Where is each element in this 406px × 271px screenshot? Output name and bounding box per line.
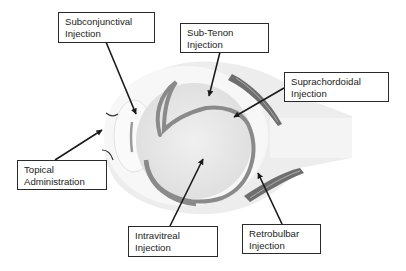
label-line1: Topical <box>24 164 106 176</box>
label-line2: Injection <box>249 240 320 252</box>
iris <box>131 122 132 152</box>
label-line1: Intravitreal <box>135 230 217 242</box>
label-intravitreal-injection: Intravitreal Injection <box>128 226 218 257</box>
label-sub-tenon-injection: Sub-Tenon Injection <box>180 23 269 53</box>
label-line2: Administration <box>24 176 106 188</box>
label-line2: Injection <box>187 39 268 51</box>
label-line2: Injection <box>65 28 154 40</box>
label-retrobulbar-injection: Retrobulbar Injection <box>242 224 321 254</box>
label-suprachordoidal-injection: Suprachordoidal Injection <box>284 72 389 102</box>
label-line1: Suprachordoidal <box>291 76 388 88</box>
label-line1: Sub-Tenon <box>187 27 268 39</box>
label-line1: Subconjunctival <box>65 16 154 28</box>
label-line2: Injection <box>291 88 388 100</box>
ocular-administration-diagram: Subconjunctival Injection Sub-Tenon Inje… <box>0 0 406 271</box>
arrow-topical <box>55 130 102 160</box>
label-line1: Retrobulbar <box>249 228 320 240</box>
label-topical-administration: Topical Administration <box>17 160 107 190</box>
label-subconjunctival-injection: Subconjunctival Injection <box>58 12 155 43</box>
optic-nerve <box>270 118 352 158</box>
label-line2: Injection <box>135 242 217 254</box>
